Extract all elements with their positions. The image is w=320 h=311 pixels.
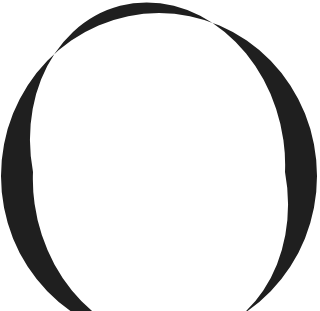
letter-o-glyph: O bbox=[0, 0, 320, 311]
letter-o-shape bbox=[0, 0, 320, 311]
